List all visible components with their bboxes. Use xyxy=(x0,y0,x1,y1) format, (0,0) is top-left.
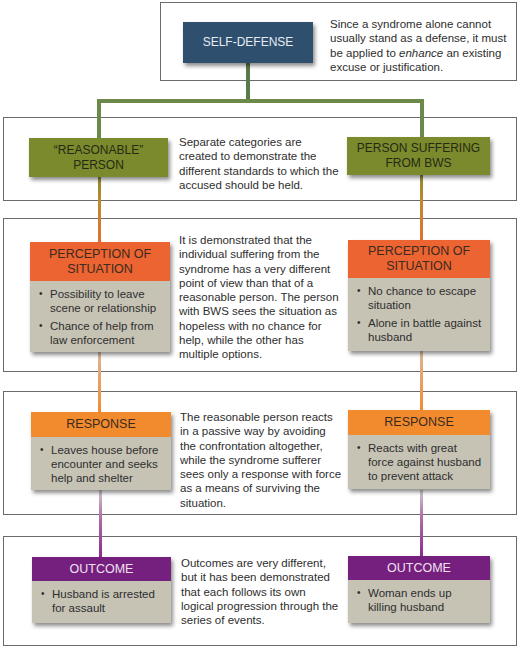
outcome-description: Outcomes are very different, but it has … xyxy=(181,556,341,627)
bullet-item: Alone in battle against husband xyxy=(356,316,482,344)
perception-left-header: PERCEPTION OF SITUATION xyxy=(30,242,170,281)
perception-left-body: Possibility to leave scene or relationsh… xyxy=(30,281,170,352)
reasonable-person-label: “REASONABLE” PERSON xyxy=(35,143,162,173)
response-left-body: Leaves house before encounter and seeks … xyxy=(31,437,171,490)
outcome-left-card: OUTCOME Husband is arrested for assault xyxy=(32,557,171,623)
perception-right-card: PERCEPTION OF SITUATION No chance to esc… xyxy=(348,240,490,351)
response-description: The reasonable person reacts in a passiv… xyxy=(180,410,342,510)
connector-left-green xyxy=(97,99,101,141)
bullet-item: No chance to escape situation xyxy=(356,284,482,312)
reasonable-person-node: “REASONABLE” PERSON xyxy=(29,138,168,177)
connector-left-cat-to-perception xyxy=(98,176,101,243)
connector-right-response-to-outcome xyxy=(420,490,423,557)
outcome-right-card: OUTCOME Woman ends up killing husband xyxy=(348,556,490,623)
bullet-item: Possibility to leave scene or relationsh… xyxy=(38,287,162,315)
connector-top-vertical xyxy=(246,62,250,102)
outcome-left-header: OUTCOME xyxy=(32,557,171,581)
bws-person-node: PERSON SUFFERING FROM BWS xyxy=(347,137,490,175)
perception-left-card: PERCEPTION OF SITUATION Possibility to l… xyxy=(30,242,170,352)
self-defense-description: Since a syndrome alone cannot usually st… xyxy=(330,17,515,74)
response-right-card: RESPONSE Reacts with great force against… xyxy=(348,410,490,489)
response-left-card: RESPONSE Leaves house before encounter a… xyxy=(31,412,171,490)
connector-right-perception-to-response xyxy=(420,351,423,412)
response-right-header: RESPONSE xyxy=(348,410,490,435)
connector-horizontal xyxy=(97,99,424,103)
bullet-item: Woman ends up killing husband xyxy=(356,586,482,614)
bws-person-label: PERSON SUFFERING FROM BWS xyxy=(353,141,484,171)
connector-right-cat-to-perception xyxy=(420,174,423,241)
connector-right-green xyxy=(420,99,424,139)
outcome-left-body: Husband is arrested for assault xyxy=(32,581,171,623)
self-defense-label: SELF-DEFENSE xyxy=(203,35,294,50)
perception-right-body: No chance to escape situation Alone in b… xyxy=(348,278,490,351)
outcome-right-header: OUTCOME xyxy=(348,556,490,580)
perception-description: It is demonstrated that the individual s… xyxy=(179,233,341,362)
categories-description: Separate categories are created to demon… xyxy=(179,135,341,192)
connector-left-perception-to-response xyxy=(98,352,101,413)
response-right-body: Reacts with great force against husband … xyxy=(348,435,490,489)
bullet-item: Reacts with great force against husband … xyxy=(356,441,482,483)
connector-left-response-to-outcome xyxy=(99,490,102,558)
bullet-item: Husband is arrested for assault xyxy=(40,587,163,615)
bullet-item: Leaves house before encounter and seeks … xyxy=(39,443,163,485)
bullet-item: Chance of help from law enforcement xyxy=(38,319,162,347)
outcome-right-body: Woman ends up killing husband xyxy=(348,580,490,623)
response-left-header: RESPONSE xyxy=(31,412,171,437)
perception-right-header: PERCEPTION OF SITUATION xyxy=(348,240,490,278)
self-defense-node: SELF-DEFENSE xyxy=(183,22,313,63)
